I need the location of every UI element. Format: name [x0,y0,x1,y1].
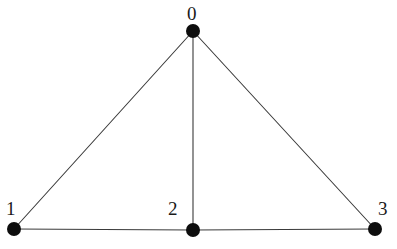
graph-node-label: 1 [6,199,16,218]
node-layer [7,24,382,237]
graph-edge [14,229,193,230]
graph-node-label: 3 [378,199,388,218]
edge-layer [14,31,375,230]
graph-node [186,223,200,237]
graph-edge [193,229,375,230]
graph-node [186,24,200,38]
graph-node-label: 0 [187,4,197,23]
graph-edge [193,31,375,229]
graph-node-label: 2 [168,199,178,218]
graph-canvas [0,0,397,249]
graph-diagram: 0123 [0,0,397,249]
graph-edge [14,31,193,229]
graph-node [7,222,21,236]
graph-node [368,222,382,236]
